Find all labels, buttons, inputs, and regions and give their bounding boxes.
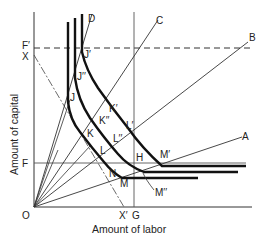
ray-extra-1	[34, 100, 70, 207]
point-label-k-prime: K′	[109, 103, 118, 114]
label-x-prime: X′	[119, 210, 128, 221]
point-label-l: L	[100, 145, 106, 156]
x-axis-title: Amount of labor	[92, 223, 167, 235]
point-label-k: K	[87, 128, 94, 139]
ray-label-c: C	[156, 15, 163, 26]
point-label-l-double-prime: L′′	[113, 133, 122, 144]
isoquant-outer	[82, 14, 246, 166]
label-f-prime: F′	[22, 40, 30, 51]
ray-label-a: A	[242, 131, 249, 142]
isoquant-diagram: D C B A F′ X F O X′ G J′ J′′ J K′ K′′ K …	[0, 0, 262, 244]
point-label-m-prime: M′	[160, 149, 170, 160]
ray-label-b: B	[249, 32, 256, 43]
point-label-j-prime: J′	[84, 49, 91, 60]
point-label-n: N	[109, 168, 116, 179]
label-origin: O	[22, 210, 30, 221]
isoquant-inner	[68, 22, 198, 178]
label-f: F	[22, 158, 28, 169]
m-double-prime-leader	[143, 173, 154, 190]
point-label-m: M	[120, 178, 128, 189]
ray-b	[34, 42, 248, 207]
point-label-m-double-prime: M′′	[155, 187, 167, 198]
ray-label-d: D	[88, 13, 95, 24]
label-x: X	[22, 51, 29, 62]
point-label-k-double-prime: K′′	[99, 115, 110, 126]
label-g: G	[132, 210, 140, 221]
y-axis-title: Amount of capital	[8, 94, 20, 175]
ray-extra-2	[34, 150, 58, 207]
ray-d	[34, 14, 92, 207]
point-label-l-prime: L′	[126, 120, 134, 131]
point-label-j: J	[70, 92, 75, 103]
point-label-h: H	[136, 152, 143, 163]
point-label-j-double-prime: J′′	[77, 71, 86, 82]
